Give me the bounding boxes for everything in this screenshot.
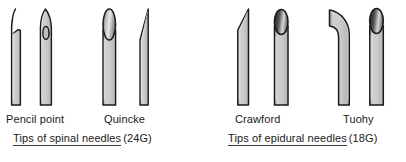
label-pencil-point: Pencil point <box>6 113 64 125</box>
caption-epidural: Tips of epidural needles(18G) <box>228 132 377 145</box>
crawford-lumen-ellipse <box>274 10 288 35</box>
needle-quincke-front <box>103 9 116 105</box>
caption-spinal-text: Tips of spinal needles <box>13 132 121 146</box>
panel-epidural-needles: Crawford Tuohy Tips of epidural needles(… <box>203 0 406 162</box>
label-quincke: Quincke <box>104 113 145 125</box>
tuohy-lumen-ellipse <box>370 9 384 34</box>
needle-tuohy-side <box>330 10 350 105</box>
needle-crawford-front <box>274 10 288 106</box>
caption-spinal-gauge: (24G) <box>121 132 152 144</box>
quincke-bevel-ellipse <box>103 9 116 40</box>
needle-pencil-point-front <box>40 9 51 105</box>
needle-tuohy-front <box>370 9 384 106</box>
label-crawford: Crawford <box>235 113 280 125</box>
needle-tips-figure: Pencil point Quincke Tips of spinal need… <box>0 0 406 162</box>
caption-spinal: Tips of spinal needles(24G) <box>13 132 152 145</box>
panel-spinal-needles: Pencil point Quincke Tips of spinal need… <box>0 0 203 162</box>
spinal-needle-drawings <box>0 0 203 120</box>
needle-quincke-side <box>140 9 148 105</box>
label-tuohy: Tuohy <box>343 113 374 125</box>
caption-epidural-text: Tips of epidural needles <box>228 132 347 146</box>
needle-pencil-point <box>12 9 21 105</box>
caption-epidural-gauge: (18G) <box>347 132 378 144</box>
needle-crawford-side <box>238 9 249 105</box>
epidural-needle-drawings <box>203 0 406 120</box>
side-port-oval <box>43 27 49 40</box>
